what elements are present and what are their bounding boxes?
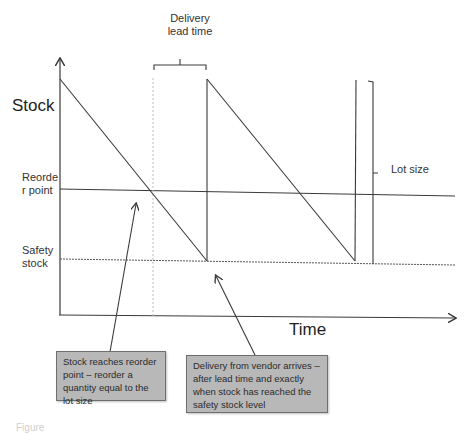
depletion-line-1	[60, 79, 207, 261]
safety-stock-line	[60, 259, 455, 265]
lead-time-bracket	[154, 59, 206, 70]
lead-time-label: Delivery lead time	[160, 12, 220, 37]
safety-stock-label: Safety stock	[22, 244, 62, 269]
lot-size-bracket	[368, 81, 378, 264]
delivery-callout-box: Delivery from vendor arrives – after lea…	[186, 355, 328, 413]
delivery-callout-arrow	[216, 276, 255, 355]
reorder-point-label: Reorde r point	[22, 171, 62, 196]
x-axis	[59, 315, 455, 318]
x-axis-label: Time	[289, 320, 326, 340]
depletion-line-2	[207, 79, 355, 261]
reorder-callout-arrow	[110, 204, 136, 352]
lot-size-label: Lot size	[391, 163, 429, 176]
reorder-callout-box: Stock reaches reorder point – reorder a …	[56, 351, 166, 401]
figure-caption: Figure	[16, 422, 44, 433]
y-axis-label: Stock	[12, 96, 55, 116]
reorder-point-line	[60, 189, 455, 196]
replenish-line-2	[355, 80, 356, 261]
